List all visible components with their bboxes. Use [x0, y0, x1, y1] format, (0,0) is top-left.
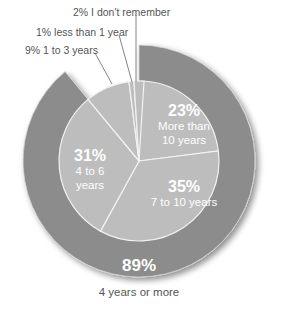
label-more-than-10-years: 23% More than 10 years — [148, 102, 220, 147]
callout-1-to-3-years: 9% 1 to 3 years — [25, 44, 98, 56]
callout-less-than-1-year: 1% less than 1 year — [36, 26, 128, 38]
label-7-to-10-years: 35% 7 to 10 years — [142, 178, 226, 210]
label-4-to-6-years: 31% 4 to 6 years — [60, 147, 120, 192]
outer-ring-percentage: 89% — [109, 256, 169, 276]
outer-ring-caption: 4 years or more — [69, 286, 209, 298]
callout-dont-remember: 2% I don't remember — [73, 6, 170, 18]
